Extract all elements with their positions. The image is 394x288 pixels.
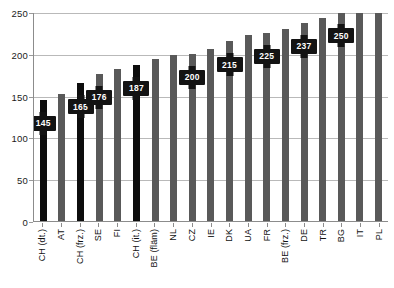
x-axis-tick-mark: [80, 223, 81, 227]
x-axis-tick-mark: [248, 223, 249, 227]
bar-group[interactable]: [164, 13, 183, 221]
x-axis-tick-mark: [42, 223, 43, 227]
x-axis-tick-label: DK: [224, 229, 234, 242]
data-label: 200: [179, 70, 205, 85]
y-axis-tick-label: 200: [12, 49, 28, 60]
x-axis-tick: BE (fläm): [145, 223, 164, 288]
bar-group[interactable]: [146, 13, 165, 221]
data-label: 176: [86, 90, 112, 105]
y-axis-tick-mark: [29, 222, 33, 223]
bar-group[interactable]: 250: [332, 13, 351, 221]
bar-group[interactable]: 145: [34, 13, 53, 221]
bar-group[interactable]: [239, 13, 258, 221]
x-axis-tick-label: SE: [93, 229, 103, 241]
x-axis-tick-label: IT: [355, 229, 365, 237]
x-axis-tick: IE: [201, 223, 220, 288]
x-axis-tick-label: CZ: [187, 229, 197, 241]
bar-group[interactable]: 165: [71, 13, 90, 221]
bar-chart: 050100150200250 145165176187200215225237…: [0, 0, 394, 288]
x-axis-tick: FR: [257, 223, 276, 288]
x-axis-tick-label: BE (frz.): [280, 229, 290, 263]
x-axis-tick: CZ: [183, 223, 202, 288]
data-label: 187: [123, 81, 149, 96]
bar-group[interactable]: 237: [295, 13, 314, 221]
x-axis-tick: CH (it.): [126, 223, 145, 288]
bar-group[interactable]: [369, 13, 388, 221]
x-axis-tick: UA: [239, 223, 258, 288]
y-axis-tick-label: 100: [12, 133, 28, 144]
x-axis-tick-mark: [304, 223, 305, 227]
bar[interactable]: [319, 18, 326, 221]
bar-group[interactable]: [109, 13, 128, 221]
x-axis-tick-label: BG: [336, 229, 346, 242]
x-axis-tick-label: NL: [168, 229, 178, 241]
bar[interactable]: [282, 29, 289, 221]
x-axis-tick: DE: [295, 223, 314, 288]
x-axis-tick: SE: [89, 223, 108, 288]
bar[interactable]: [58, 94, 65, 221]
y-axis-tick-mark: [29, 97, 33, 98]
data-label: 145: [33, 116, 56, 131]
x-axis-tick-mark: [341, 223, 342, 227]
x-axis-tick-mark: [117, 223, 118, 227]
plot-area: 145165176187200215225237250: [33, 13, 388, 222]
x-axis-tick-label: CH (dt.): [37, 229, 47, 261]
x-axis-tick-label: PL: [374, 229, 384, 240]
bar[interactable]: [245, 35, 252, 221]
bar[interactable]: [170, 55, 177, 221]
x-axis-tick: TR: [313, 223, 332, 288]
x-axis-tick-mark: [211, 223, 212, 227]
bar[interactable]: [356, 13, 363, 221]
y-axis-tick-mark: [29, 13, 33, 14]
bar-group[interactable]: [351, 13, 370, 221]
bar-group[interactable]: [202, 13, 221, 221]
bar-group[interactable]: 187: [127, 13, 146, 221]
x-axis-tick: BG: [332, 223, 351, 288]
x-axis-tick-mark: [173, 223, 174, 227]
x-axis-tick: DK: [220, 223, 239, 288]
bar-group[interactable]: 215: [220, 13, 239, 221]
data-label: 237: [291, 39, 317, 54]
bar-group[interactable]: 176: [90, 13, 109, 221]
x-axis-tick: FI: [108, 223, 127, 288]
x-axis-tick: IT: [351, 223, 370, 288]
y-axis: 050100150200250: [0, 0, 28, 288]
x-axis-tick-label: CH (frz.): [75, 229, 85, 264]
y-axis-tick-label: 250: [12, 8, 28, 19]
bar[interactable]: [152, 59, 159, 221]
y-axis-tick-mark: [29, 138, 33, 139]
x-axis-tick: CH (frz.): [70, 223, 89, 288]
data-label: 225: [254, 49, 280, 64]
y-axis-tick-label: 50: [17, 175, 28, 186]
x-axis-tick-label: DE: [299, 229, 309, 242]
bar-group[interactable]: 225: [258, 13, 277, 221]
x-axis-tick-label: UA: [243, 229, 253, 242]
x-axis-tick-label: FR: [262, 229, 272, 241]
x-axis-tick-mark: [61, 223, 62, 227]
x-axis-tick: BE (frz.): [276, 223, 295, 288]
x-axis-tick-mark: [379, 223, 380, 227]
x-axis-tick-mark: [98, 223, 99, 227]
bar-group[interactable]: 200: [183, 13, 202, 221]
x-axis-tick-mark: [267, 223, 268, 227]
x-axis-tick: AT: [52, 223, 71, 288]
bar[interactable]: [375, 13, 382, 221]
y-axis-tick-mark: [29, 55, 33, 56]
bar[interactable]: [207, 49, 214, 221]
data-label: 250: [328, 28, 354, 43]
y-axis-tick-mark: [29, 180, 33, 181]
y-axis-tick-label: 150: [12, 91, 28, 102]
x-axis-tick-mark: [154, 223, 155, 227]
x-axis-tick-label: TR: [318, 229, 328, 241]
x-axis-tick-mark: [285, 223, 286, 227]
x-axis-tick-label: FI: [112, 229, 122, 237]
x-axis-tick: CH (dt.): [33, 223, 52, 288]
x-axis-tick-mark: [136, 223, 137, 227]
x-axis: CH (dt.)ATCH (frz.)SEFICH (it.)BE (fläm)…: [33, 223, 388, 288]
x-axis-tick-label: AT: [56, 229, 66, 240]
bar[interactable]: [114, 69, 121, 221]
x-axis-tick-mark: [360, 223, 361, 227]
bar-series: 145165176187200215225237250: [34, 13, 388, 221]
y-axis-tick-label: 0: [23, 217, 28, 228]
data-label: 215: [217, 57, 243, 72]
